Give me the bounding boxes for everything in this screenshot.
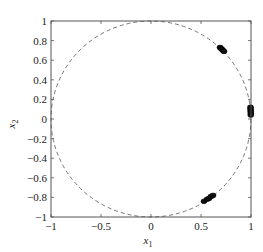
y-tick-label: 0.6 [33,54,47,66]
data-point [210,193,216,198]
y-tick-label: −1 [35,211,47,223]
x-tick-label: 0.5 [194,220,208,232]
x-tick-label: −0.5 [91,220,111,232]
x-tick-label: 1 [248,220,254,232]
y-tick-label: 0.4 [33,74,47,86]
y-tick-label: 0.2 [33,93,47,105]
y-tick-label: −0.6 [27,172,47,184]
y-tick-label: 0.8 [33,35,47,47]
y-axis-label: x2 [5,120,20,130]
y-tick-label: −0.2 [27,133,47,145]
data-points [201,45,254,204]
y-tick-label: 1 [42,15,48,27]
x-tick-label: 0 [148,220,154,232]
data-point [221,49,227,54]
x-axis-label: x1 [143,234,153,249]
y-tick-label: −0.8 [27,191,47,203]
scatter-chart: −1−0.500.51 10.80.60.40.20−0.2−0.4−0.6−0… [0,0,263,252]
y-tick-label: −0.4 [27,152,47,164]
y-tick-label: 0 [42,113,48,125]
